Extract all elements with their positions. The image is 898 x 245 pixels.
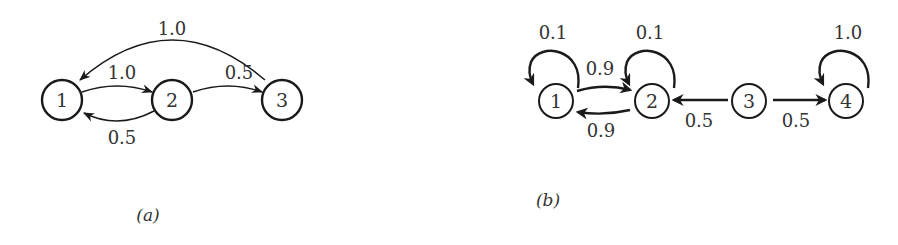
node-a-2: 2 bbox=[152, 80, 192, 120]
edge-b-4-self bbox=[820, 51, 869, 88]
node-label: 3 bbox=[276, 89, 288, 111]
edge-label-b-2-self: 0.1 bbox=[636, 22, 665, 43]
edge-a-2-to-3 bbox=[193, 86, 262, 92]
edge-b-2-to-1 bbox=[578, 110, 630, 114]
node-label: 3 bbox=[743, 90, 755, 112]
caption-b: (b) bbox=[536, 190, 560, 210]
diagram-a: 1.0 1.0 0.5 0.5 1 2 3 (a) bbox=[42, 18, 302, 225]
edge-label-b-1-2: 0.9 bbox=[586, 58, 615, 79]
caption-a: (a) bbox=[136, 205, 159, 225]
edge-label-a-2-1: 0.5 bbox=[108, 127, 137, 148]
node-label: 2 bbox=[166, 89, 178, 111]
edge-label-a-1-2: 1.0 bbox=[108, 62, 137, 83]
edge-label-b-2-1: 0.9 bbox=[587, 120, 616, 141]
edge-label-b-3-4: 0.5 bbox=[782, 110, 811, 131]
node-b-3: 3 bbox=[732, 84, 766, 118]
node-label: 1 bbox=[56, 89, 68, 111]
figure-canvas: 1.0 1.0 0.5 0.5 1 2 3 (a) 0.1 0.1 bbox=[0, 0, 898, 245]
edge-a-1-to-2 bbox=[82, 86, 152, 92]
edge-b-1-to-2 bbox=[577, 87, 630, 91]
diagram-b: 0.1 0.1 1.0 0.9 0.9 0.5 0.5 1 2 3 4 (b) bbox=[530, 22, 869, 210]
node-label: 1 bbox=[550, 90, 562, 112]
node-label: 2 bbox=[646, 90, 658, 112]
edge-label-b-1-self: 0.1 bbox=[539, 22, 568, 43]
edge-label-b-4-self: 1.0 bbox=[834, 22, 863, 43]
edge-label-a-3-1: 1.0 bbox=[158, 18, 187, 39]
edge-label-a-2-3: 0.5 bbox=[225, 62, 254, 83]
edge-a-2-to-1 bbox=[84, 111, 154, 121]
edge-label-b-3-2: 0.5 bbox=[685, 110, 714, 131]
edge-b-2-self bbox=[626, 51, 675, 88]
node-label: 4 bbox=[840, 90, 852, 112]
node-a-1: 1 bbox=[42, 80, 82, 120]
node-a-3: 3 bbox=[262, 80, 302, 120]
edge-b-1-self bbox=[530, 51, 579, 88]
node-b-2: 2 bbox=[635, 84, 669, 118]
node-b-1: 1 bbox=[539, 84, 573, 118]
node-b-4: 4 bbox=[829, 84, 863, 118]
